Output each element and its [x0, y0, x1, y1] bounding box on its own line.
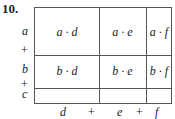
cell-a-f: a · f	[146, 25, 172, 40]
col-divider-2	[146, 8, 147, 103]
col-label-plus-1: +	[88, 105, 95, 119]
col-label-e: e	[117, 105, 122, 119]
cell-a-e: a · e	[99, 25, 146, 40]
row-divider-1	[35, 55, 171, 56]
cell-a-d: a · d	[35, 25, 99, 40]
multiplication-grid: a · d a · e a · f b · d b · e b · f	[34, 7, 172, 104]
cell-b-d: b · d	[35, 64, 99, 79]
col-label-d: d	[60, 105, 66, 119]
cell-b-f: b · f	[146, 64, 172, 79]
row-label-a: a	[22, 24, 28, 39]
row-label-c: c	[22, 87, 27, 102]
col-divider-1	[99, 8, 100, 103]
col-label-f: f	[155, 105, 158, 119]
row-label-plus-1: +	[21, 43, 28, 58]
col-label-plus-2: +	[136, 105, 143, 119]
cell-b-e: b · e	[99, 64, 146, 79]
problem-number: 10.	[2, 1, 18, 17]
row-divider-2	[35, 88, 171, 89]
row-label-b: b	[22, 62, 28, 77]
